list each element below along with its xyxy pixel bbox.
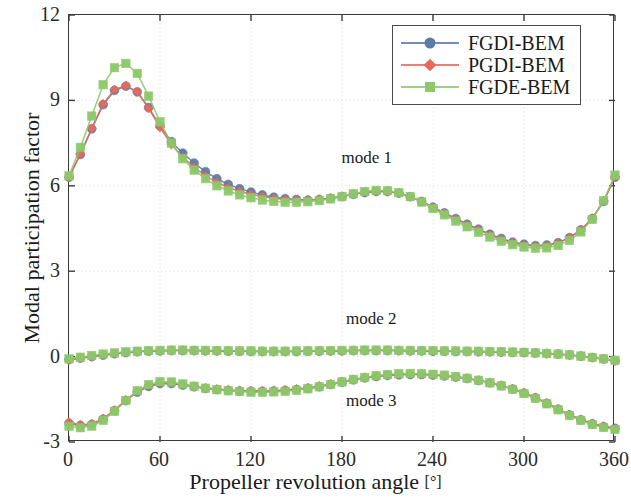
legend-swatch-pgdi	[401, 58, 459, 72]
x-tick-label-3: 180	[326, 448, 356, 471]
x-axis-unit: [°]	[425, 473, 442, 490]
x-tick-label-1: 60	[149, 448, 169, 471]
y-tick-label-2: 3	[16, 259, 60, 282]
x-tick-label-4: 240	[417, 448, 447, 471]
y-tick-label-4: 9	[16, 88, 60, 111]
x-tick-label-6: 360	[599, 448, 629, 471]
x-tick-label-2: 120	[235, 448, 265, 471]
y-axis-title: Modal participation factor	[19, 18, 45, 438]
legend-item-0: FGDI-BEM	[401, 32, 570, 54]
legend-marker-diamond-icon	[424, 59, 437, 72]
x-axis-title: Propeller revolution angle [°]	[0, 469, 631, 495]
legend-item-1: PGDI-BEM	[401, 54, 570, 76]
annotation-mode-2: mode 2	[346, 309, 397, 329]
legend-swatch-fgdi	[401, 36, 459, 50]
annotation-mode-1: mode 1	[342, 148, 393, 168]
legend-label-1: PGDI-BEM	[468, 55, 565, 75]
legend-label-0: FGDI-BEM	[468, 33, 565, 53]
y-tick-label-0: -3	[16, 430, 60, 453]
legend-item-2: FGDE-BEM	[401, 76, 570, 98]
y-tick-label-3: 6	[16, 173, 60, 196]
legend-marker-square-icon	[425, 82, 435, 92]
y-tick-label-5: 12	[16, 3, 60, 26]
legend-label-2: FGDE-BEM	[468, 77, 570, 97]
y-tick-label-1: 0	[16, 344, 60, 367]
x-tick-label-0: 0	[63, 448, 73, 471]
chart-root: Modal participation factor Propeller rev…	[0, 0, 631, 500]
annotation-mode-3: mode 3	[346, 391, 397, 411]
x-tick-label-5: 300	[508, 448, 538, 471]
legend-marker-circle-icon	[425, 38, 436, 49]
legend-swatch-fgde	[401, 80, 459, 94]
legend: FGDI-BEM PGDI-BEM FGDE-BEM	[392, 25, 581, 105]
x-axis-title-text: Propeller revolution angle	[189, 469, 419, 494]
